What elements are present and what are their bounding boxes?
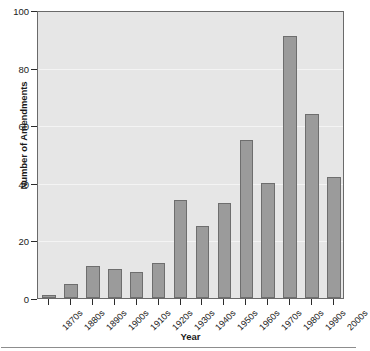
- x-tick-label-1990s: 1990s: [323, 308, 347, 332]
- bar-1990s: [305, 114, 319, 298]
- bar-1950s: [218, 203, 232, 298]
- x-tick-label-1960s: 1960s: [257, 308, 281, 332]
- y-tick-100: [31, 11, 37, 12]
- bar-1870s: [42, 295, 56, 298]
- y-tick-40: [31, 184, 37, 185]
- x-tick-label-1950s: 1950s: [236, 308, 260, 332]
- bar-1920s: [152, 263, 166, 298]
- x-tick-1870s: [48, 299, 49, 305]
- bar-1970s: [261, 183, 275, 298]
- y-tick-label-0: 0: [3, 294, 29, 305]
- bar-1880s: [64, 284, 78, 298]
- bar-2000s: [327, 177, 341, 298]
- x-tick-label-1880s: 1880s: [82, 308, 106, 332]
- x-tick-label-2000s: 2000s: [345, 308, 369, 332]
- y-tick-label-80: 80: [3, 63, 29, 74]
- x-tick-2000s: [333, 299, 334, 305]
- y-tick-label-20: 20: [3, 236, 29, 247]
- x-tick-label-1980s: 1980s: [301, 308, 325, 332]
- x-tick-label-1900s: 1900s: [126, 308, 150, 332]
- x-tick-label-1920s: 1920s: [170, 308, 194, 332]
- x-tick-1930s: [180, 299, 181, 305]
- x-tick-label-1910s: 1910s: [148, 308, 172, 332]
- x-tick-1900s: [114, 299, 115, 305]
- x-tick-label-1970s: 1970s: [279, 308, 303, 332]
- bar-1980s: [283, 36, 297, 298]
- x-tick-1880s: [70, 299, 71, 305]
- bar-1940s: [196, 226, 210, 298]
- x-tick-1890s: [92, 299, 93, 305]
- bar-1930s: [174, 200, 188, 298]
- y-tick-label-100: 100: [3, 6, 29, 17]
- x-tick-1910s: [136, 299, 137, 305]
- x-tick-1940s: [201, 299, 202, 305]
- x-tick-label-1940s: 1940s: [214, 308, 238, 332]
- bar-series: [38, 12, 343, 298]
- y-tick-20: [31, 241, 37, 242]
- y-tick-80: [31, 69, 37, 70]
- plot-area: [37, 11, 344, 299]
- footer-divider: [1, 347, 356, 348]
- bar-1910s: [130, 272, 144, 298]
- x-tick-1990s: [311, 299, 312, 305]
- y-tick-label-40: 40: [3, 178, 29, 189]
- x-axis-title: Year: [37, 331, 344, 342]
- x-tick-1980s: [289, 299, 290, 305]
- bar-1900s: [108, 269, 122, 298]
- x-tick-1970s: [267, 299, 268, 305]
- y-tick-label-60: 60: [3, 121, 29, 132]
- x-tick-1950s: [223, 299, 224, 305]
- bar-1960s: [240, 140, 254, 298]
- y-axis-tick-labels: 020406080100: [0, 0, 29, 351]
- y-tick-60: [31, 126, 37, 127]
- x-tick-1920s: [158, 299, 159, 305]
- x-tick-label-1890s: 1890s: [104, 308, 128, 332]
- x-tick-label-1930s: 1930s: [192, 308, 216, 332]
- bar-1890s: [86, 266, 100, 298]
- x-tick-label-1870s: 1870s: [60, 308, 84, 332]
- x-tick-1960s: [245, 299, 246, 305]
- y-tick-0: [31, 299, 37, 300]
